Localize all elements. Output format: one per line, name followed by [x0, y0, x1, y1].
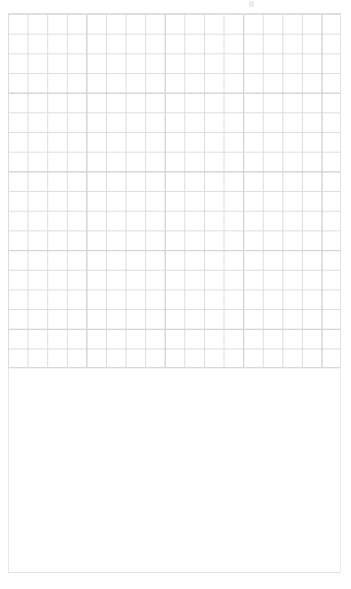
- empty-content-panel[interactable]: [8, 368, 341, 573]
- content-panel-body: [9, 369, 340, 572]
- page-root: [0, 0, 351, 589]
- graph-paper-grid-canvas[interactable]: [8, 14, 341, 368]
- top-artifact-mark: [249, 1, 254, 7]
- grid-left-edge: [8, 14, 9, 367]
- grid-top-edge: [8, 14, 340, 15]
- grid-major-lines: [8, 14, 340, 367]
